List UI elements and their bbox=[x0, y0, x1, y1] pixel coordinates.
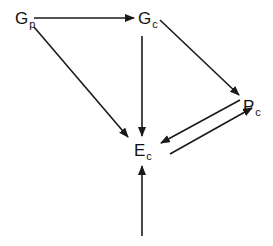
node-gp-base: G bbox=[15, 9, 28, 28]
node-gc: Gc bbox=[138, 10, 158, 27]
node-ec: Ec bbox=[134, 142, 152, 159]
node-gc-subscript: c bbox=[152, 18, 158, 30]
flow-diagram: Gp Gc Pc Ec bbox=[0, 0, 273, 246]
node-ec-base: E bbox=[134, 141, 145, 160]
node-gc-base: G bbox=[138, 9, 151, 28]
edge-gp-to-ec bbox=[34, 27, 128, 137]
node-pc-base: P bbox=[243, 97, 254, 116]
edge-gc-to-pc bbox=[160, 20, 239, 95]
node-ec-subscript: c bbox=[146, 150, 152, 162]
node-pc-subscript: c bbox=[255, 106, 261, 118]
node-pc: Pc bbox=[243, 98, 261, 115]
edges-layer bbox=[0, 0, 273, 246]
node-gp: Gp bbox=[15, 10, 35, 27]
node-gp-subscript: p bbox=[29, 18, 35, 30]
